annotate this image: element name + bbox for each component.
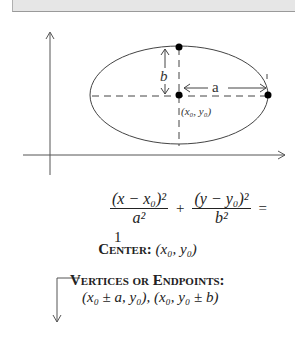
right-vertex-point <box>265 92 272 99</box>
center-formula: Center: (x₀, y₀) <box>0 241 295 258</box>
ellipse-equation: (x − x₀)² a² + (y − y₀)² b² = 1 <box>110 190 290 246</box>
a-arrow <box>184 74 267 94</box>
x-axis <box>23 151 285 159</box>
top-endpoint-point <box>176 44 183 51</box>
center-value: (x₀, y₀) <box>156 241 197 257</box>
vertices-label: Vertices or Endpoints: <box>70 272 225 288</box>
plus-sign: + <box>172 200 188 217</box>
y-term-denominator: b² <box>192 209 250 227</box>
vertices-heading: Vertices or Endpoints: <box>70 272 225 289</box>
center-coord-label: (x₀, y₀) <box>181 105 212 118</box>
equals-sign: = <box>255 200 271 217</box>
y-term-numerator: (y − y₀)² <box>192 190 250 209</box>
x-term-denominator: a² <box>110 209 168 227</box>
y-axis <box>46 32 54 175</box>
y-term-fraction: (y − y₀)² b² <box>192 190 250 227</box>
x-term-numerator: (x − x₀)² <box>110 190 168 209</box>
a-label: a <box>212 79 219 95</box>
vertices-value: (x₀ ± a, y₀), (x₀, y₀ ± b) <box>82 289 218 306</box>
center-point <box>176 92 183 99</box>
b-label: b <box>160 68 168 84</box>
x-term-fraction: (x − x₀)² a² <box>110 190 168 227</box>
center-label: Center: <box>98 241 152 257</box>
